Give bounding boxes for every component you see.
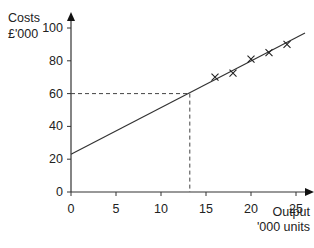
x-tick-label: 20	[239, 202, 263, 216]
cost-output-chart: Costs £'000 Output '000 units 0204060801…	[0, 0, 314, 248]
x-tick-label: 0	[59, 202, 83, 216]
x-axis-arrow-icon	[305, 188, 314, 196]
y-tick-label: 100	[33, 21, 63, 35]
y-axis-arrow-icon	[67, 12, 75, 21]
x-axis-label-line2: '000 units	[240, 220, 310, 234]
x-tick-label: 15	[194, 202, 218, 216]
y-tick-label: 60	[33, 87, 63, 101]
y-tick-label: 40	[33, 119, 63, 133]
x-tick-label: 25	[284, 202, 308, 216]
y-tick-label: 80	[33, 54, 63, 68]
x-tick-label: 5	[104, 202, 128, 216]
y-tick-label: 0	[33, 185, 63, 199]
x-tick-label: 10	[149, 202, 173, 216]
y-tick-label: 20	[33, 152, 63, 166]
